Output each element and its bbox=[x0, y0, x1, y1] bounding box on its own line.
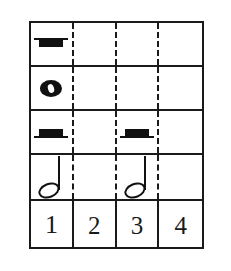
grid-row-half-notes bbox=[31, 155, 202, 201]
beat-number-label: 4 bbox=[174, 213, 187, 238]
grid-row-half-rests bbox=[31, 111, 202, 155]
grid-row-whole-note bbox=[31, 67, 202, 111]
beat-number-label: 3 bbox=[131, 213, 144, 238]
grid-row-beat-numbers: 1 2 3 4 bbox=[31, 201, 202, 249]
beat-number-label: 1 bbox=[45, 212, 58, 238]
grid-cell-r2-beat3[interactable] bbox=[117, 67, 160, 109]
grid-cell-r1-beat1[interactable] bbox=[31, 23, 74, 65]
grid-cell-r4-beat3[interactable] bbox=[117, 155, 160, 199]
grid-cell-r2-beat4[interactable] bbox=[159, 67, 202, 109]
grid-cell-r1-beat2[interactable] bbox=[74, 23, 117, 65]
empty-slot bbox=[94, 132, 95, 133]
whole-note-icon bbox=[40, 80, 62, 97]
empty-slot bbox=[180, 132, 181, 133]
whole-rest-block bbox=[39, 39, 63, 47]
grid-cell-beat-number-2[interactable]: 2 bbox=[74, 201, 117, 249]
half-rest-icon bbox=[120, 124, 154, 140]
half-note-icon bbox=[124, 156, 150, 198]
half-rest-block bbox=[125, 129, 149, 137]
empty-slot bbox=[136, 88, 137, 89]
grid-cell-r4-beat1[interactable] bbox=[31, 155, 74, 199]
empty-slot bbox=[180, 177, 181, 178]
grid-cell-r3-beat4[interactable] bbox=[159, 111, 202, 153]
empty-slot bbox=[94, 44, 95, 45]
empty-slot bbox=[180, 44, 181, 45]
empty-slot bbox=[136, 44, 137, 45]
half-rest-icon bbox=[34, 124, 68, 140]
grid-cell-r1-beat4[interactable] bbox=[159, 23, 202, 65]
empty-slot bbox=[94, 88, 95, 89]
rhythm-grid: 1 2 3 4 bbox=[29, 21, 204, 249]
grid-cell-r3-beat1[interactable] bbox=[31, 111, 74, 153]
grid-cell-beat-number-4[interactable]: 4 bbox=[159, 201, 202, 249]
grid-row-whole-rest bbox=[31, 23, 202, 67]
half-rest-block bbox=[39, 129, 63, 137]
grid-cell-r2-beat2[interactable] bbox=[74, 67, 117, 109]
grid-cell-r4-beat4[interactable] bbox=[159, 155, 202, 199]
grid-cell-r1-beat3[interactable] bbox=[117, 23, 160, 65]
grid-cell-r2-beat1[interactable] bbox=[31, 67, 74, 109]
grid-cell-r3-beat2[interactable] bbox=[74, 111, 117, 153]
whole-rest-icon bbox=[34, 36, 68, 52]
grid-cell-beat-number-3[interactable]: 3 bbox=[117, 201, 160, 249]
beat-number-label: 2 bbox=[88, 213, 101, 238]
grid-cell-r3-beat3[interactable] bbox=[117, 111, 160, 153]
half-note-icon bbox=[38, 156, 64, 198]
grid-cell-r4-beat2[interactable] bbox=[74, 155, 117, 199]
grid-cell-beat-number-1[interactable]: 1 bbox=[31, 201, 74, 249]
empty-slot bbox=[94, 177, 95, 178]
empty-slot bbox=[180, 88, 181, 89]
